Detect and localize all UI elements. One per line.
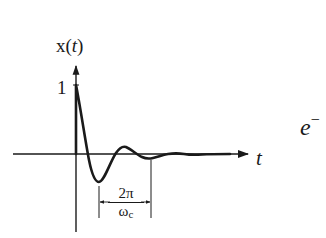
exponential-expression-fragment: e− [300, 112, 320, 139]
y-axis-label-prefix: x( [56, 35, 72, 56]
exp-base: e [300, 114, 311, 140]
period-numerator: 2π [108, 186, 144, 203]
damped-oscillation-figure: x(t) 1 t 2π ωc e− [0, 0, 326, 238]
y-axis-label: x(t) [56, 36, 83, 55]
omega-subscript: c [128, 208, 133, 220]
x-axis-label: t [256, 148, 262, 169]
period-denominator: ωc [108, 203, 144, 220]
plot-canvas [0, 0, 326, 238]
omega-symbol: ω [119, 203, 129, 219]
exp-superscript: − [311, 111, 320, 128]
response-curve [76, 85, 230, 182]
y-tick-label: 1 [57, 78, 67, 97]
y-axis-label-suffix: ) [77, 35, 83, 56]
period-annotation: 2π ωc [108, 186, 144, 220]
